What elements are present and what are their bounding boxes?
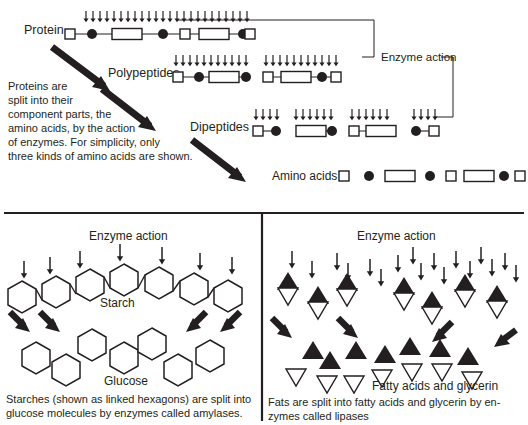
figure-root: Protein bbox=[0, 0, 528, 425]
starch-caption-line-1: glucose molecules by enzymes called amyl… bbox=[6, 407, 243, 419]
starch-caption-line-0: Starches (shown as linked hexagons) are … bbox=[6, 393, 251, 405]
fat-caption-line-1: zymes called lipases bbox=[268, 410, 369, 422]
fatty-acids-label: Fatty acids and glycerin bbox=[372, 379, 498, 393]
caption-line-3: amino acids, by the action bbox=[8, 122, 135, 134]
protein-chain bbox=[65, 29, 255, 40]
protein-label: Protein bbox=[24, 23, 64, 37]
starch-label: Starch bbox=[100, 296, 135, 310]
dipeptides-label: Dipeptides bbox=[190, 120, 249, 134]
caption-line-4: of enzymes. For simplicity, only bbox=[8, 136, 161, 148]
amino-acids-label: Amino acids bbox=[272, 169, 337, 183]
caption-line-5: three kinds of amino acids are shown. bbox=[8, 150, 193, 162]
caption-line-0: Proteins are bbox=[8, 80, 67, 92]
caption-line-2: component parts, the bbox=[8, 108, 111, 120]
enzyme-action-label-fat: Enzyme action bbox=[357, 229, 436, 243]
glucose-label: Glucose bbox=[104, 374, 148, 388]
polypeptides-label: Polypeptides bbox=[108, 66, 180, 80]
fat-caption-line-0: Fats are split into fatty acids and glyc… bbox=[268, 396, 501, 408]
enzyme-action-label-starch: Enzyme action bbox=[89, 229, 168, 243]
caption-line-1: split into their bbox=[8, 94, 73, 106]
